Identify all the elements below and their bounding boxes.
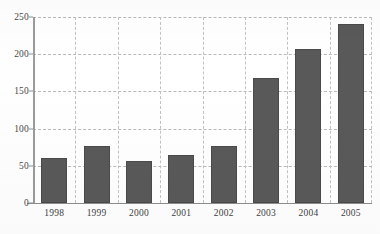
y-axis-tick-mark bbox=[29, 17, 33, 18]
bar bbox=[211, 146, 237, 203]
y-axis-tick-label: 0 bbox=[0, 198, 29, 208]
x-axis-tick-label: 2001 bbox=[171, 208, 191, 218]
bar bbox=[338, 24, 364, 203]
y-axis-tick-label: 200 bbox=[0, 49, 29, 59]
gridline-vertical bbox=[287, 17, 288, 203]
bar bbox=[84, 146, 110, 203]
gridline-vertical bbox=[203, 17, 204, 203]
gridline-vertical bbox=[371, 17, 372, 203]
x-axis-tick-label: 1998 bbox=[44, 208, 64, 218]
x-axis-tick-label: 1999 bbox=[87, 208, 107, 218]
y-axis-tick-label: 50 bbox=[0, 161, 29, 171]
bar bbox=[295, 49, 321, 203]
x-axis-tick-label: 2002 bbox=[214, 208, 234, 218]
y-axis-tick-mark bbox=[29, 165, 33, 166]
plot-area bbox=[33, 17, 372, 203]
bar bbox=[253, 78, 279, 203]
y-axis-tick-label: 100 bbox=[0, 124, 29, 134]
y-axis-tick-label: 250 bbox=[0, 12, 29, 22]
gridline-vertical bbox=[118, 17, 119, 203]
y-axis-tick-mark bbox=[29, 128, 33, 129]
x-axis-tick-label: 2004 bbox=[299, 208, 319, 218]
x-axis-tick-label: 2000 bbox=[129, 208, 149, 218]
x-axis-tick-label: 2005 bbox=[341, 208, 361, 218]
bar-chart: 050100150200250 199819992000200120022003… bbox=[0, 0, 380, 234]
y-axis-tick-mark bbox=[29, 203, 33, 204]
gridline-vertical bbox=[75, 17, 76, 203]
y-axis-tick-mark bbox=[29, 91, 33, 92]
y-axis-tick-label: 150 bbox=[0, 86, 29, 96]
x-axis-line bbox=[27, 203, 372, 204]
gridline-vertical bbox=[330, 17, 331, 203]
y-axis-line bbox=[33, 17, 35, 204]
bar bbox=[41, 158, 67, 203]
gridline-vertical bbox=[245, 17, 246, 203]
y-axis-tick-mark bbox=[29, 54, 33, 55]
x-axis-tick-label: 2003 bbox=[256, 208, 276, 218]
bar bbox=[168, 155, 194, 203]
bar bbox=[126, 161, 152, 203]
gridline-vertical bbox=[160, 17, 161, 203]
